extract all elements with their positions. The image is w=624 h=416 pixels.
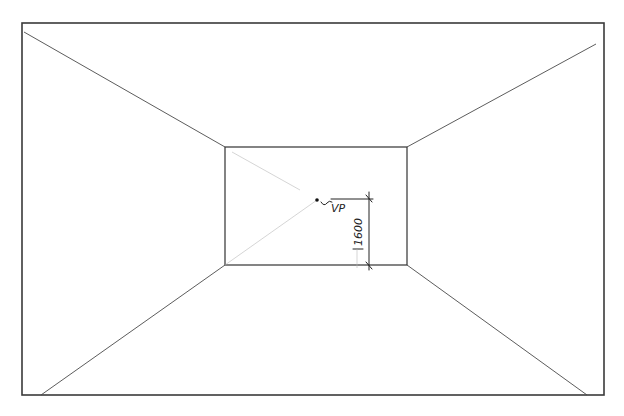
- vp-label: VP: [331, 202, 346, 215]
- vanishing-point-dot: [315, 198, 319, 202]
- perspective-sketch: VP 1600: [0, 0, 624, 416]
- floor-right-edge: [407, 265, 587, 395]
- outer-frame: [22, 23, 604, 395]
- back-wall: [225, 147, 407, 265]
- eye-height-dimension: 1600: [352, 218, 365, 246]
- construction-line: [232, 152, 300, 190]
- construction-line: [225, 200, 317, 265]
- floor-left-edge: [41, 265, 225, 395]
- ceiling-left-edge: [24, 32, 225, 147]
- ceiling-right-edge: [407, 44, 596, 147]
